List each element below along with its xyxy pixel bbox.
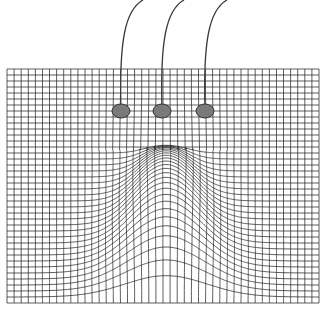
grid-column-line (99, 69, 100, 303)
grid-column-line (234, 69, 235, 303)
grid-column-line (112, 69, 113, 303)
electrodes (112, 104, 214, 118)
lead-wire-3 (205, 0, 227, 111)
lead-wire-1 (121, 0, 143, 111)
grid-column-line (227, 69, 228, 303)
grid-column-line (106, 69, 107, 303)
grid-column-line (199, 69, 201, 303)
grid-column-line (147, 69, 149, 303)
electrode-wires (121, 0, 227, 111)
electrode-1 (112, 104, 130, 118)
electrode-3 (196, 104, 214, 118)
deformed-grid-diagram (0, 0, 327, 309)
grid-column-line (154, 69, 156, 303)
grid-column-line (170, 69, 171, 303)
lead-wire-2 (162, 0, 184, 111)
grid-column-line (213, 69, 214, 303)
electrode-2 (153, 104, 171, 118)
grid-column-line (191, 69, 193, 303)
